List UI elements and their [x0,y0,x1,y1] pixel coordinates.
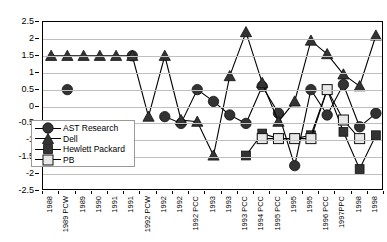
y-axis-tick-label: 0.5 [21,84,34,94]
data-point-marker [322,49,333,59]
x-axis-tick-mark [156,191,157,194]
x-axis-tick-label: 1993 PCC [241,196,249,231]
x-axis-tick-label: 1990 [95,196,103,213]
data-point-marker [240,27,251,37]
legend-label: PB [63,155,74,165]
gridline [43,39,382,40]
data-point-marker [42,133,53,143]
gridline [43,107,382,108]
x-axis-tick-label: 1992 PCC [192,196,200,231]
y-axis-tick-label: -2 [26,168,34,178]
x-axis-tick-mark [383,191,384,194]
x-axis-tick-label: 1995 [306,196,314,213]
y-axis-tick-mark [35,106,39,107]
legend-marker-icon [35,144,61,154]
x-axis-tick-label: 1997PPC [338,196,346,228]
gridline [43,73,382,74]
data-point-marker [242,151,251,160]
data-point-marker [208,150,219,160]
x-axis-tick-label: 1993 [225,196,233,213]
y-axis-tick-label: 2 [29,33,34,43]
data-point-marker [257,134,267,144]
y-axis-tick-label: -2.5 [18,185,34,195]
x-axis-tick-mark [318,191,319,194]
x-axis-tick-mark [334,191,335,194]
data-point-marker [371,131,380,140]
x-axis-tick-label: 1992 [176,196,184,213]
chart-legend: AST ResearchDellHewlett PackardPB [31,120,135,167]
x-axis-tick-mark [172,191,173,194]
x-axis-tick-label: 1992 [160,196,168,213]
x-axis-tick-mark [75,191,76,194]
x-axis-tick-mark [58,191,59,194]
x-axis-tick-label: 1989 PCW [62,196,70,232]
x-axis-tick-label: 1988 [46,196,54,213]
data-point-marker [143,111,154,121]
x-axis-tick-mark [367,191,368,194]
data-point-marker [160,111,170,121]
y-axis-tick-mark [35,55,39,56]
x-axis-tick-label: 1991 [111,196,119,213]
gridline [43,56,382,57]
x-axis-tick-label: 1993 [209,196,217,213]
data-point-marker [225,110,235,120]
data-point-marker [339,127,348,136]
y-axis-tick-label: 2.5 [21,16,34,26]
x-axis-tick-label: 1998 [355,196,363,213]
y-axis-tick-mark [35,89,39,90]
y-axis-tick-label: 1.5 [21,50,34,60]
legend-label: Hewlett Packard [63,144,125,154]
legend-marker-icon [35,123,61,133]
data-point-marker [208,96,218,106]
legend-item: PB [35,155,131,166]
x-axis-tick-mark [253,191,254,194]
y-axis-tick-label: 1 [29,67,34,77]
x-axis-tick-mark [204,191,205,194]
gridline [43,174,382,175]
x-axis-tick-label: 1998 [371,196,379,213]
x-axis-tick-mark [139,191,140,194]
x-axis-tick-label: 1995 [290,196,298,213]
data-point-marker [43,155,53,165]
data-point-marker [371,108,381,118]
data-point-marker [338,79,348,89]
data-point-marker [355,134,365,144]
data-point-marker [290,134,300,144]
x-axis-tick-mark [351,191,352,194]
y-axis: 2.521.510.50-0.5-1-1.5-2-2.5 [0,14,39,197]
y-axis-tick-mark [35,38,39,39]
y-axis-tick-label: 0 [29,101,34,111]
x-axis-tick-mark [123,191,124,194]
legend-symbol [40,154,56,166]
x-axis-tick-label: 1996 PCC [322,196,330,231]
legend-label: Dell [63,134,78,144]
data-point-marker [273,134,283,144]
x-axis-tick-mark [107,191,108,194]
x-axis-tick-mark [42,191,43,194]
x-axis-tick-mark [286,191,287,194]
x-axis: 19881989 PCW19891990199119911992 PCW1992… [42,191,383,242]
x-axis-tick-label: 1991 [127,196,135,213]
x-axis-tick-mark [269,191,270,194]
x-axis-tick-mark [237,191,238,194]
y-axis-tick-mark [35,21,39,22]
legend-marker-icon [35,134,61,144]
data-point-marker [322,110,332,120]
y-axis-tick-mark [35,190,39,191]
data-point-marker [306,134,316,144]
data-point-marker [289,96,300,106]
x-axis-tick-label: 1989 [79,196,87,213]
x-axis-tick-mark [188,191,189,194]
data-point-marker [305,35,316,45]
x-axis-tick-label: 1995 PCC [274,196,282,231]
y-axis-tick-mark [35,72,39,73]
x-axis-tick-label: 1992 PCW [144,196,152,232]
y-axis-tick-mark [35,173,39,174]
x-axis-tick-mark [91,191,92,194]
x-axis-tick-label: 1994 PCC [257,196,265,231]
legend-marker-icon [35,155,61,165]
data-point-marker [289,160,299,170]
x-axis-tick-mark [221,191,222,194]
legend-label: AST Research [63,123,118,133]
data-point-marker [355,165,364,174]
